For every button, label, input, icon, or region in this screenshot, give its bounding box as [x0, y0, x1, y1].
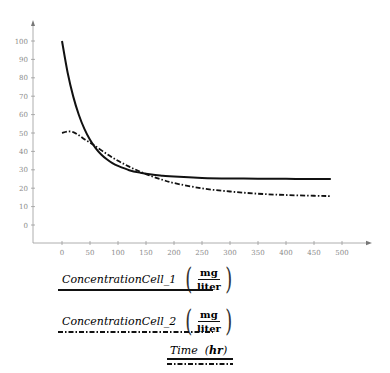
y-tick-label: 90	[19, 56, 28, 64]
x-tick-label: 250	[195, 249, 208, 257]
y-axis-arrow	[31, 20, 35, 26]
x-axis-label-unit: (hr)	[201, 344, 227, 357]
legend-label-cell-1: ConcentrationCell_1	[62, 273, 176, 286]
x-tick-label: 200	[167, 249, 180, 257]
y-tick-label: 80	[19, 74, 28, 82]
unit-numerator: mg	[198, 309, 220, 322]
legend-line-cell-1	[0, 288, 390, 294]
unit-numerator: mg	[198, 267, 220, 280]
x-tick-label: 150	[139, 249, 152, 257]
x-axis-label-underlines	[0, 358, 390, 368]
series-line-concentrationcell-2	[62, 131, 331, 196]
x-tick-label: 50	[86, 249, 95, 257]
x-axis-unit: hr	[209, 344, 223, 357]
x-tick-label: 0	[60, 249, 64, 257]
x-tick-label: 400	[279, 249, 292, 257]
x-tick-label: 300	[223, 249, 236, 257]
y-tick-label: 60	[19, 111, 28, 119]
y-tick-label: 0	[24, 222, 28, 230]
axes	[31, 20, 372, 245]
x-tick-label: 100	[111, 249, 124, 257]
y-tick-label: 30	[19, 166, 28, 174]
x-tick-label: 450	[307, 249, 320, 257]
y-tick-label: 100	[15, 38, 28, 46]
y-tick-label: 20	[19, 185, 28, 193]
x-tick-label: 350	[251, 249, 264, 257]
x-axis-arrow	[366, 241, 372, 245]
x-axis-label: Time (hr)	[170, 344, 227, 357]
series	[62, 41, 331, 196]
x-tick-label: 500	[335, 249, 348, 257]
legend-label-cell-2: ConcentrationCell_2	[62, 315, 176, 328]
legend-line-cell-2	[0, 330, 390, 336]
plot-area: 0102030405060708090100050100150200250300…	[0, 0, 390, 260]
x-axis-label-name: Time	[170, 344, 198, 357]
series-line-concentrationcell-1	[62, 41, 331, 179]
y-tick-label: 50	[19, 130, 28, 138]
y-tick-label: 10	[19, 203, 28, 211]
y-tick-label: 40	[19, 148, 28, 156]
ticks: 0102030405060708090100050100150200250300…	[15, 38, 349, 258]
y-tick-label: 70	[19, 93, 28, 101]
